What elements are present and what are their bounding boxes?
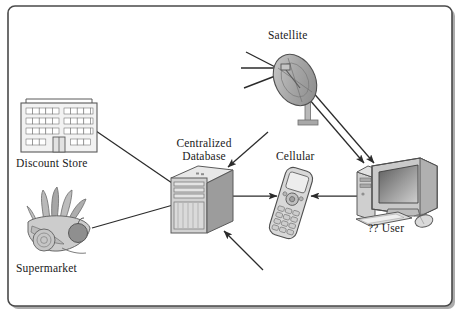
diagram-figure: Satellite Centralized Database Cellular … [0, 0, 461, 316]
produce-apple [69, 224, 88, 243]
centralized-database-label: Centralized Database [168, 137, 240, 163]
satellite-feed-horn [281, 64, 290, 70]
monitor-screen [379, 165, 418, 203]
computer-monitor [372, 158, 437, 216]
user-label: ?? User [368, 222, 404, 234]
database-drive-bays [174, 182, 204, 198]
centralized-database-label-line1: Centralized [168, 137, 240, 150]
centralized-database-server [171, 166, 233, 233]
satellite-label: Satellite [268, 29, 307, 41]
centralized-database-label-line2: Database [168, 150, 240, 163]
desktop-computer [356, 158, 437, 229]
produce-cabbage [33, 229, 55, 251]
cellular-label: Cellular [276, 150, 315, 162]
building-entrance [53, 137, 65, 152]
discount-store-building [21, 99, 97, 152]
discount-store-label: Discount Store [16, 157, 87, 169]
supermarket-label: Supermarket [16, 262, 77, 274]
